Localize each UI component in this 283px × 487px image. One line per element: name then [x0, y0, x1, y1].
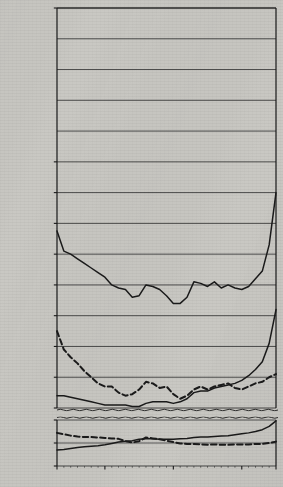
crime-rates-line-chart: [0, 0, 283, 487]
chart-canvas: [0, 0, 283, 487]
